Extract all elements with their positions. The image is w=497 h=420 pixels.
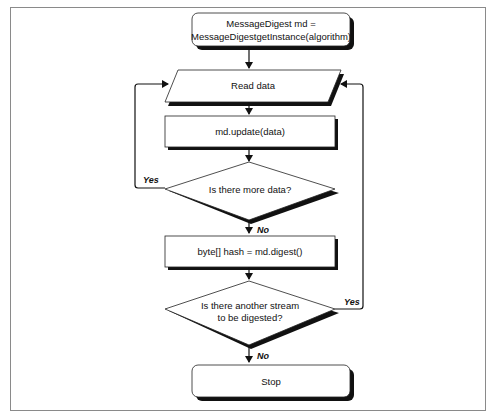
node-another-line2: to be digested? (218, 312, 283, 323)
node-init-line1: MessageDigest md = (226, 18, 316, 29)
edge-more-yes-read (135, 84, 168, 188)
flowchart: MessageDigest md = MessageDigestgetInsta… (0, 0, 497, 420)
node-update: md.update(data) (165, 116, 338, 150)
node-more-label: Is there more data? (209, 184, 291, 195)
node-init-line2: MessageDigestgetInstance(algorithm) (191, 31, 351, 42)
node-another: Is there another stream to be digested? (165, 281, 339, 349)
node-init: MessageDigest md = MessageDigestgetInsta… (191, 13, 354, 50)
label-yes-2: Yes (344, 297, 360, 307)
label-yes-1: Yes (143, 175, 159, 185)
label-no-1: No (257, 225, 269, 235)
node-stop-label: Stop (261, 376, 281, 387)
label-no-2: No (257, 351, 269, 361)
node-digest-label: byte[] hash = md.digest() (198, 246, 303, 257)
node-another-line1: Is there another stream (201, 300, 299, 311)
node-update-label: md.update(data) (215, 126, 285, 137)
node-more: Is there more data? (165, 162, 339, 224)
node-read: Read data (165, 70, 344, 106)
node-stop: Stop (192, 365, 354, 401)
edge-another-yes-read (335, 84, 363, 309)
node-read-label: Read data (231, 80, 276, 91)
node-digest: byte[] hash = md.digest() (165, 236, 338, 270)
